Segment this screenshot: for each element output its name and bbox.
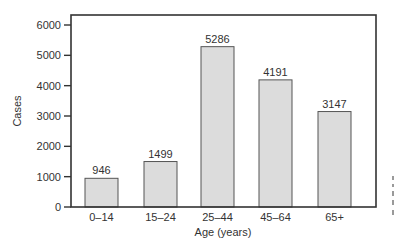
x-tick-label: 15–24 [145,211,176,223]
edge-artifact [392,176,394,180]
x-tick-label: 65+ [325,211,344,223]
y-tick-label: 1000 [37,171,61,183]
bar-value-label: 946 [92,164,110,176]
x-tick-label: 25–44 [202,211,233,223]
bar [85,178,118,207]
edge-artifact [392,191,394,196]
x-axis-title: Age (years) [195,226,252,238]
y-axis-title: Cases [11,95,23,127]
bar-value-label: 5286 [205,33,229,45]
y-tick-label: 0 [55,201,61,213]
bar [144,162,177,207]
y-tick-label: 6000 [37,19,61,31]
bar-chart: 0100020003000400050006000 94614995286419… [0,0,397,249]
bar-value-label: 3147 [322,98,346,110]
y-tick-label: 5000 [37,49,61,61]
y-tick-label: 4000 [37,80,61,92]
bar [259,80,292,207]
bars: 9461499528641913147 [85,33,351,207]
x-tick-label: 0–14 [89,211,113,223]
edge-artifact [392,210,394,215]
y-axis-ticks: 0100020003000400050006000 [37,19,71,213]
y-tick-label: 2000 [37,140,61,152]
bar-value-label: 4191 [263,66,287,78]
edge-artifact [392,184,394,187]
x-axis-ticks: 0–1415–2425–4445–6465+ [89,211,344,223]
edge-artifact [392,200,394,205]
bar [201,47,234,207]
bar-value-label: 1499 [148,148,172,160]
bar [318,112,351,207]
x-tick-label: 45–64 [260,211,291,223]
y-tick-label: 3000 [37,110,61,122]
